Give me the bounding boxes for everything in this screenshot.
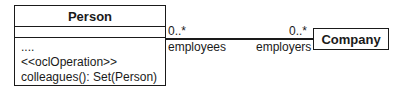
company-end-role: employers [256, 40, 311, 54]
person-attributes-compartment [15, 27, 165, 38]
operation-colleagues: colleagues(): Set(Person) [21, 70, 165, 85]
operation-stereotype: <<oclOperation>> [21, 55, 165, 70]
person-end-multiplicity: 0..* [168, 24, 186, 38]
person-end-role: employees [168, 40, 226, 54]
company-class-box: Company [313, 28, 389, 50]
company-end-multiplicity: 0..* [289, 24, 307, 38]
operation-ellipsis: .... [21, 40, 165, 55]
company-class-name: Company [321, 32, 380, 47]
person-class-name: Person [15, 6, 165, 27]
person-class-box: Person .... <<oclOperation>> colleagues(… [14, 5, 166, 86]
person-operations-compartment: .... <<oclOperation>> colleagues(): Set(… [15, 38, 165, 85]
